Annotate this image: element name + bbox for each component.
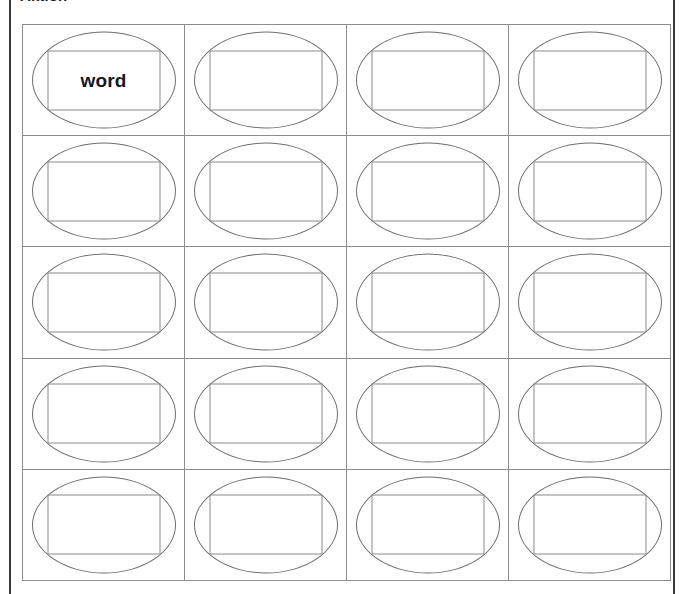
cell-shape xyxy=(518,143,662,240)
table-row xyxy=(23,136,671,247)
table-row xyxy=(23,469,671,580)
grid-cell-r2c3[interactable] xyxy=(347,136,509,247)
word-box[interactable] xyxy=(533,495,646,555)
grid-cell-r5c3[interactable] xyxy=(347,469,509,580)
table-row: word xyxy=(23,25,671,136)
cell-shape xyxy=(356,365,500,462)
grid-cell-r5c1[interactable] xyxy=(23,469,185,580)
word-grid-table: word xyxy=(22,24,671,581)
cell-shape xyxy=(356,254,500,351)
cell-shape xyxy=(518,365,662,462)
word-box[interactable] xyxy=(47,161,160,221)
grid-cell-r1c3[interactable] xyxy=(347,25,509,136)
grid-cell-r1c4[interactable] xyxy=(509,25,671,136)
grid-cell-r5c4[interactable] xyxy=(509,469,671,580)
word-box[interactable] xyxy=(47,272,160,332)
grid-cell-r4c1[interactable] xyxy=(23,358,185,469)
word-box[interactable] xyxy=(371,50,484,110)
worksheet-heading: Aktion xyxy=(20,0,67,4)
grid-cell-r1c1[interactable]: word xyxy=(23,25,185,136)
word-box[interactable] xyxy=(209,384,322,444)
cell-shape xyxy=(518,32,662,129)
grid-cell-r2c1[interactable] xyxy=(23,136,185,247)
cell-shape xyxy=(194,365,338,462)
cell-shape xyxy=(356,476,500,573)
cell-shape xyxy=(32,143,176,240)
word-grid-body: word xyxy=(23,25,671,581)
word-box[interactable] xyxy=(371,161,484,221)
word-box[interactable] xyxy=(533,384,646,444)
cell-shape xyxy=(518,476,662,573)
table-row xyxy=(23,247,671,358)
grid-cell-r4c3[interactable] xyxy=(347,358,509,469)
cell-shape xyxy=(32,254,176,351)
page-frame-line-left xyxy=(9,0,11,594)
grid-cell-r3c2[interactable] xyxy=(185,247,347,358)
grid-cell-r3c3[interactable] xyxy=(347,247,509,358)
grid-cell-r5c2[interactable] xyxy=(185,469,347,580)
grid-cell-r3c1[interactable] xyxy=(23,247,185,358)
word-box[interactable] xyxy=(209,495,322,555)
cell-shape xyxy=(194,143,338,240)
cell-shape xyxy=(194,476,338,573)
word-box[interactable] xyxy=(209,50,322,110)
word-box[interactable] xyxy=(47,495,160,555)
cell-shape xyxy=(194,254,338,351)
grid-cell-r4c2[interactable] xyxy=(185,358,347,469)
cell-shape xyxy=(32,365,176,462)
page-frame-line-right xyxy=(673,0,675,594)
table-row xyxy=(23,358,671,469)
word-box[interactable] xyxy=(533,50,646,110)
cell-shape xyxy=(518,254,662,351)
grid-cell-r2c2[interactable] xyxy=(185,136,347,247)
cell-shape xyxy=(356,143,500,240)
word-box[interactable] xyxy=(533,272,646,332)
cell-shape: word xyxy=(32,32,176,129)
cell-shape xyxy=(194,32,338,129)
word-box[interactable] xyxy=(371,384,484,444)
grid-cell-r2c4[interactable] xyxy=(509,136,671,247)
word-label: word xyxy=(80,71,126,90)
word-box[interactable] xyxy=(371,495,484,555)
word-box[interactable] xyxy=(371,272,484,332)
cell-shape xyxy=(32,476,176,573)
grid-cell-r1c2[interactable] xyxy=(185,25,347,136)
word-box[interactable]: word xyxy=(47,50,160,110)
word-box[interactable] xyxy=(533,161,646,221)
grid-cell-r3c4[interactable] xyxy=(509,247,671,358)
cell-shape xyxy=(356,32,500,129)
word-box[interactable] xyxy=(47,384,160,444)
word-box[interactable] xyxy=(209,272,322,332)
grid-cell-r4c4[interactable] xyxy=(509,358,671,469)
word-box[interactable] xyxy=(209,161,322,221)
